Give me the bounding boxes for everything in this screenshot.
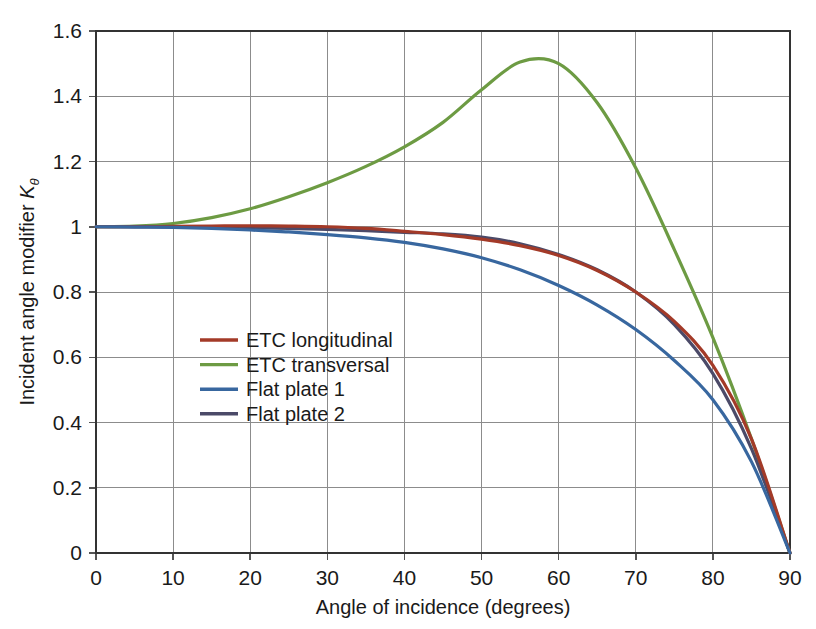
y-tick-label: 0: [70, 541, 82, 564]
x-tick-label: 60: [547, 566, 570, 589]
x-tick-label: 90: [778, 566, 801, 589]
legend-label: Flat plate 1: [246, 378, 345, 400]
x-tick-label: 80: [701, 566, 724, 589]
y-tick-label: 0.6: [53, 345, 82, 368]
x-tick-label: 30: [316, 566, 339, 589]
y-tick-label: 1.4: [53, 84, 83, 107]
y-tick-label: 1.6: [53, 19, 82, 42]
y-tick-label: 0.2: [53, 476, 82, 499]
y-tick-label: 1.2: [53, 150, 82, 173]
y-tick-label: 0.8: [53, 280, 82, 303]
x-tick-label: 10: [161, 566, 184, 589]
y-axis-subscript: θ: [27, 178, 42, 185]
legend-label: ETC transversal: [246, 354, 389, 376]
x-tick-label: 70: [624, 566, 647, 589]
y-axis-title-text: Incident angle modifier: [16, 199, 38, 406]
y-tick-label: 0.4: [53, 411, 83, 434]
x-tick-label: 0: [90, 566, 102, 589]
legend-label: ETC longitudinal: [246, 329, 393, 351]
figure-background: [0, 0, 816, 629]
legend-label: Flat plate 2: [246, 403, 345, 425]
y-axis-tick-labels: 00.20.40.60.811.21.41.6: [53, 19, 83, 564]
x-tick-label: 20: [239, 566, 262, 589]
y-tick-label: 1: [70, 215, 82, 238]
line-chart: 0102030405060708090 00.20.40.60.811.21.4…: [0, 0, 816, 629]
x-axis-title: Angle of incidence (degrees): [316, 596, 571, 618]
chart-figure: 0102030405060708090 00.20.40.60.811.21.4…: [0, 0, 816, 629]
x-tick-label: 50: [470, 566, 493, 589]
x-tick-label: 40: [393, 566, 416, 589]
